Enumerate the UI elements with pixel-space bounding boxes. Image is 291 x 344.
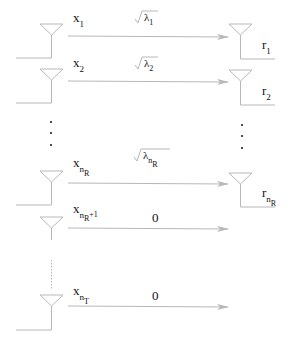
- channel-arrow-nR: [68, 183, 228, 184]
- ellipsis-dot: [50, 132, 52, 134]
- channel-arrow-nR-plus-1: [68, 228, 228, 229]
- tx-label-nR-plus-1: xnR+1: [73, 202, 98, 215]
- gain-label-1: λ1: [144, 12, 153, 23]
- gain-label-nR: λnR: [143, 150, 158, 161]
- rx-label-2: r2: [262, 84, 271, 97]
- channel-arrow-nT: [68, 306, 228, 307]
- ellipsis-dot: [50, 121, 52, 123]
- tx-label-1: x1: [73, 11, 84, 24]
- ellipsis-dot: [241, 135, 243, 137]
- rx-label-nR: rnR: [262, 186, 276, 199]
- ellipsis-dot: [241, 147, 243, 149]
- tx-label-nT: xnT: [73, 284, 89, 297]
- tx-antenna-nR-plus-1: [40, 217, 63, 290]
- ellipsis-dot: [241, 124, 243, 126]
- rx-label-1: r1: [262, 38, 271, 51]
- tx-antenna-nT: [16, 295, 63, 330]
- tx-antenna-nR: [16, 171, 63, 205]
- gain-label-nR-plus-1: 0: [152, 211, 159, 224]
- gain-label-nT: 0: [152, 289, 159, 302]
- mimo-diagram: [0, 0, 291, 344]
- tx-antenna-2: [16, 69, 63, 103]
- channel-arrow-2: [68, 81, 228, 82]
- tx-label-2: x2: [73, 56, 84, 69]
- ellipsis-dot: [50, 144, 52, 146]
- channel-arrow-1: [68, 36, 228, 37]
- tx-antenna-1: [16, 24, 63, 58]
- gain-label-2: λ2: [144, 58, 153, 69]
- tx-label-nR: xnR: [73, 156, 89, 169]
